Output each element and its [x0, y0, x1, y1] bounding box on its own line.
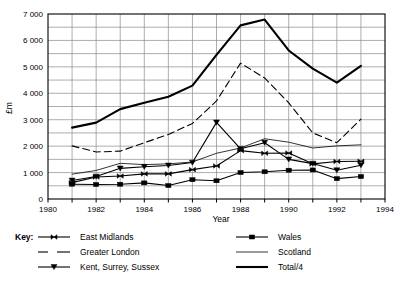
data-point-marker: [142, 181, 147, 185]
data-point-marker: [118, 182, 123, 186]
y-tick-label: 7 000: [23, 10, 44, 19]
data-point-marker: [249, 235, 254, 239]
data-point-marker: [310, 168, 315, 172]
data-point-marker: [214, 179, 219, 183]
x-tick-label: 1992: [328, 205, 346, 214]
data-point-marker: [94, 182, 99, 186]
line-chart: 01 0002 0003 0004 0005 0006 0007 000 198…: [0, 0, 402, 284]
y-tick-label: 6 000: [23, 36, 44, 45]
y-tick-label: 3 000: [23, 116, 44, 125]
data-point-marker: [262, 170, 267, 174]
data-point-marker: [334, 177, 339, 181]
x-tick-label: 1982: [87, 205, 105, 214]
y-tick-label: 1 000: [23, 169, 44, 178]
data-point-marker: [358, 175, 363, 179]
legend-title: Key:: [15, 232, 34, 242]
chart-figure: 01 0002 0003 0004 0005 0006 0007 000 198…: [0, 0, 402, 284]
data-point-marker: [166, 184, 171, 188]
y-tick-label: 0: [39, 195, 44, 204]
y-tick-label: 4 000: [23, 89, 44, 98]
x-tick-label: 1984: [135, 205, 153, 214]
data-point-marker: [286, 168, 291, 172]
y-tick-label: 5 000: [23, 63, 44, 72]
legend-label: Total/4: [278, 262, 303, 272]
legend-label: Wales: [278, 232, 301, 242]
legend-label: Kent, Surrey, Sussex: [80, 262, 160, 272]
y-axis-label: £m: [4, 102, 14, 114]
chart-background: [0, 0, 402, 284]
x-tick-label: 1994: [376, 205, 394, 214]
x-axis-label: Year: [212, 214, 229, 224]
y-tick-label: 2 000: [23, 142, 44, 151]
legend-label: Scotland: [278, 247, 311, 257]
legend-label: Greater London: [80, 247, 140, 257]
x-tick-label: 1990: [280, 205, 298, 214]
data-point-marker: [238, 171, 243, 175]
x-tick-label: 1986: [184, 205, 202, 214]
data-point-marker: [190, 178, 195, 182]
x-tick-label: 1988: [232, 205, 250, 214]
x-tick-label: 1980: [39, 205, 57, 214]
data-point-marker: [69, 182, 74, 186]
legend-label: East Midlands: [80, 232, 133, 242]
